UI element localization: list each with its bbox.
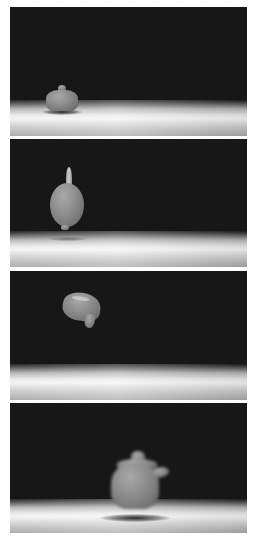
frame-panel-4	[10, 403, 247, 533]
teapot-body	[50, 183, 84, 227]
teapot-body	[61, 290, 103, 323]
teapot-lid-knob	[61, 225, 69, 230]
frame-panel-2	[10, 139, 247, 267]
frame-panel-3	[10, 271, 247, 400]
teapot-object	[44, 85, 80, 111]
frame-panel-1	[10, 7, 247, 136]
floor-sheen	[10, 364, 247, 400]
object-shadow	[48, 237, 88, 241]
teapot-spout	[84, 313, 96, 328]
object-shadow	[100, 514, 170, 522]
teapot-object	[48, 167, 88, 232]
teapot-body	[46, 90, 78, 111]
teapot-object	[105, 451, 175, 511]
teapot-object	[60, 290, 107, 331]
floor-sheen	[10, 231, 247, 267]
